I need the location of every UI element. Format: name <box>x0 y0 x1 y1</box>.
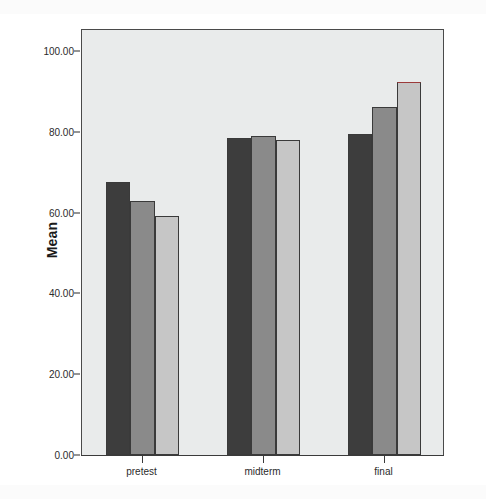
bar-final-series-3 <box>397 82 422 455</box>
y-tick-label: 80.00 <box>20 126 74 137</box>
x-tick-label-pretest: pretest <box>126 466 157 477</box>
y-tick-mark <box>74 374 80 375</box>
x-tick-label-midterm: midterm <box>244 466 280 477</box>
y-tick-mark <box>74 293 80 294</box>
y-tick-mark <box>74 131 80 132</box>
y-tick-label: 60.00 <box>20 207 74 218</box>
y-tick-mark <box>74 51 80 52</box>
y-axis-ticks: 0.0020.0040.0060.0080.00100.00 <box>18 0 74 499</box>
bar-pretest-series-3 <box>155 216 180 455</box>
bar-midterm-series-1 <box>227 138 252 455</box>
y-tick-mark <box>74 212 80 213</box>
y-tick-label: 100.00 <box>20 46 74 57</box>
bar-chart: Mean 0.0020.0040.0060.0080.00100.00 pret… <box>0 0 486 499</box>
plot-frame <box>81 29 444 456</box>
bar-final-series-1 <box>348 134 373 455</box>
bar-midterm-series-2 <box>251 136 276 455</box>
x-tick-mark <box>142 456 143 463</box>
y-tick-label: 20.00 <box>20 369 74 380</box>
bar-midterm-series-3 <box>276 140 301 455</box>
y-tick-label: 40.00 <box>20 288 74 299</box>
x-tick-mark <box>384 456 385 463</box>
bar-final-series-2 <box>372 107 397 455</box>
bar-pretest-series-1 <box>106 182 131 455</box>
x-tick-mark <box>263 456 264 463</box>
bar-pretest-series-2 <box>130 201 155 455</box>
y-tick-label: 0.00 <box>20 450 74 461</box>
y-tick-mark <box>74 455 80 456</box>
x-tick-label-final: final <box>374 466 392 477</box>
plot-area <box>82 30 443 455</box>
